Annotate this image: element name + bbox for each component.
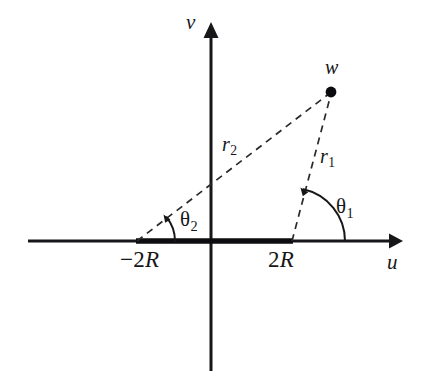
u-axis-arrowhead bbox=[389, 234, 403, 249]
point-w-marker bbox=[326, 87, 337, 98]
tick-right-symbol: R bbox=[280, 247, 294, 272]
ray-r2-subscript: 2 bbox=[230, 143, 237, 158]
theta1-label: θ1 bbox=[336, 196, 354, 220]
v-axis-arrowhead bbox=[204, 22, 219, 38]
ray-r2-label: r2 bbox=[222, 134, 237, 158]
ray-r1-label: r1 bbox=[320, 146, 335, 170]
theta2-label: θ2 bbox=[180, 209, 198, 233]
ray-r1-symbol: r bbox=[320, 145, 328, 167]
theta2-subscript: 2 bbox=[191, 218, 198, 234]
tick-left-symbol: R bbox=[145, 247, 159, 272]
tick-label-minus-2R: −2R bbox=[120, 248, 159, 271]
theta2-symbol: θ bbox=[180, 207, 190, 231]
tick-right-number: 2 bbox=[268, 247, 280, 272]
diagram-graphics bbox=[0, 0, 423, 387]
tick-minus-sign: − bbox=[120, 247, 133, 272]
u-axis-label: u bbox=[387, 252, 398, 273]
point-w-label: w bbox=[325, 57, 338, 77]
tick-label-2R: 2R bbox=[268, 248, 294, 271]
ray-r2-symbol: r bbox=[222, 133, 230, 155]
ray-r1-subscript: 1 bbox=[328, 155, 335, 170]
tick-left-number: 2 bbox=[133, 247, 145, 272]
figure-canvas: v u w −2R 2R r2 r1 θ2 θ1 bbox=[0, 0, 423, 387]
v-axis-label: v bbox=[186, 12, 195, 33]
theta1-symbol: θ bbox=[336, 194, 346, 218]
theta1-subscript: 1 bbox=[347, 205, 354, 221]
